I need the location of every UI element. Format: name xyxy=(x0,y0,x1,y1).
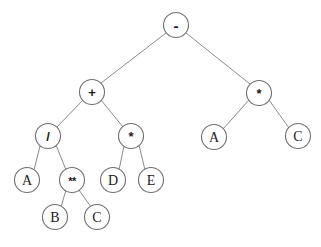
tree-node-n1[interactable]: + xyxy=(80,80,105,105)
tree-edge-n0-n1 xyxy=(101,33,166,83)
node-label-n0: - xyxy=(174,17,179,34)
node-label-n11: B xyxy=(50,210,59,225)
node-label-n3: / xyxy=(46,129,50,144)
expression-tree-figure: -+*/*ACA**DEBC xyxy=(0,0,321,247)
tree-node-n6[interactable]: C xyxy=(286,124,311,149)
node-label-n12: C xyxy=(92,210,101,225)
tree-node-n0[interactable]: - xyxy=(164,13,189,38)
tree-nodes-group: -+*/*ACA**DEBC xyxy=(15,13,311,230)
tree-edge-n2-n5 xyxy=(223,100,249,129)
tree-edge-n4-n10 xyxy=(139,145,145,170)
expression-tree-canvas: -+*/*ACA**DEBC xyxy=(0,0,321,247)
node-label-n7: A xyxy=(22,173,33,188)
node-label-n9: D xyxy=(108,173,118,188)
tree-edge-n4-n9 xyxy=(119,146,124,170)
tree-edge-n8-n11 xyxy=(61,190,66,207)
tree-node-n4[interactable]: * xyxy=(119,124,144,149)
tree-edge-n3-n8 xyxy=(56,145,66,170)
tree-edge-n1-n4 xyxy=(101,100,123,127)
node-label-n1: + xyxy=(88,85,96,100)
node-label-n6: C xyxy=(293,129,302,144)
tree-node-n7[interactable]: A xyxy=(15,168,40,193)
node-label-n10: E xyxy=(147,173,156,188)
tree-edge-n1-n3 xyxy=(57,100,83,127)
tree-edge-n2-n6 xyxy=(269,100,289,128)
tree-node-n10[interactable]: E xyxy=(139,168,164,193)
tree-edge-n0-n2 xyxy=(186,33,250,84)
tree-edge-n8-n12 xyxy=(79,190,91,207)
tree-node-n9[interactable]: D xyxy=(101,168,126,193)
tree-node-n2[interactable]: * xyxy=(247,81,272,106)
tree-node-n5[interactable]: A xyxy=(202,125,227,150)
tree-node-n11[interactable]: B xyxy=(43,205,68,230)
node-label-n5: A xyxy=(209,130,220,145)
tree-node-n12[interactable]: C xyxy=(85,205,110,230)
tree-node-n3[interactable]: / xyxy=(36,124,61,149)
node-label-n8: ** xyxy=(68,175,77,187)
tree-node-n8[interactable]: ** xyxy=(60,168,85,193)
tree-edge-n3-n7 xyxy=(34,146,40,170)
